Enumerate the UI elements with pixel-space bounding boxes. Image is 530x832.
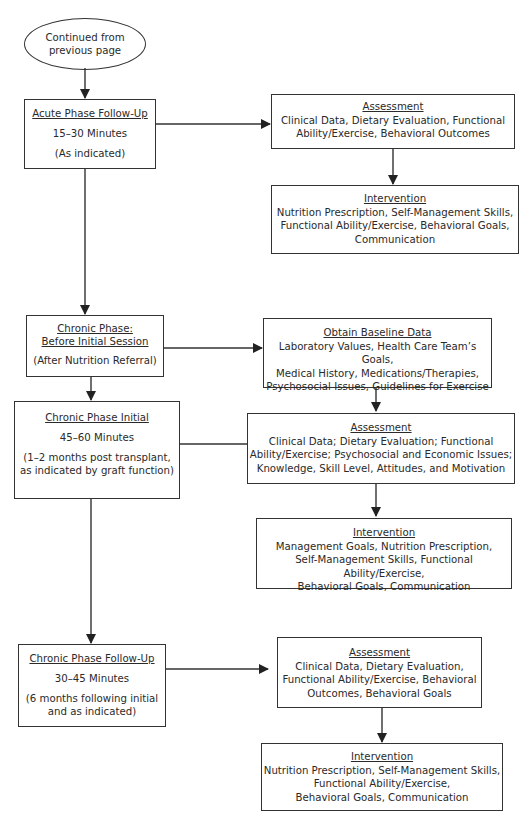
- acute-intervention-line: Nutrition Prescription, Self-Management …: [272, 206, 518, 220]
- chronic-followup-duration: 30–45 Minutes: [19, 672, 165, 685]
- chronic-initial-intervention-line: Self-Management Skills, Functional Abili…: [257, 553, 511, 580]
- acute-followup-note: (As indicated): [25, 147, 155, 160]
- chronic-followup-assessment-line: Clinical Data, Dietary Evaluation,: [278, 660, 481, 674]
- acute-followup-title: Acute Phase Follow-Up: [25, 107, 155, 120]
- oval-line-2: previous page: [25, 44, 145, 57]
- chronic-followup-note-line: (6 months following initial: [19, 692, 165, 705]
- baseline-data-box: Obtain Baseline Data Laboratory Values, …: [263, 318, 492, 388]
- chronic-before-title-line: Before Initial Session: [27, 335, 163, 348]
- chronic-followup-assessment-title: Assessment: [278, 646, 481, 660]
- chronic-followup-title: Chronic Phase Follow-Up: [19, 652, 165, 665]
- chronic-followup-intervention-box: Intervention Nutrition Prescription, Sel…: [261, 743, 503, 811]
- chronic-followup-intervention-line: Behavioral Goals, Communication: [262, 791, 502, 805]
- chronic-followup-assessment-line: Outcomes, Behavioral Goals: [278, 687, 481, 701]
- chronic-initial-title: Chronic Phase Initial: [15, 411, 179, 424]
- chronic-followup-assessment-line: Functional Ability/Exercise, Behavioral: [278, 673, 481, 687]
- acute-intervention-box: Intervention Nutrition Prescription, Sel…: [271, 185, 519, 254]
- chronic-phase-before-initial-box: Chronic Phase: Before Initial Session (A…: [26, 315, 164, 377]
- continued-from-previous-page-oval: Continued from previous page: [24, 18, 146, 70]
- chronic-phase-followup-box: Chronic Phase Follow-Up 30–45 Minutes (6…: [18, 644, 166, 727]
- chronic-initial-intervention-title: Intervention: [257, 526, 511, 540]
- acute-assessment-title: Assessment: [272, 100, 514, 114]
- chronic-phase-initial-box: Chronic Phase Initial 45–60 Minutes (1–2…: [14, 401, 180, 499]
- chronic-followup-assessment-box: Assessment Clinical Data, Dietary Evalua…: [277, 637, 482, 708]
- baseline-line: Psychosocial Issues, Guidelines for Exer…: [264, 380, 491, 394]
- acute-assessment-box: Assessment Clinical Data, Dietary Evalua…: [271, 94, 515, 149]
- baseline-line: Medical History, Medications/Therapies,: [264, 367, 491, 381]
- chronic-initial-intervention-box: Intervention Management Goals, Nutrition…: [256, 518, 512, 589]
- acute-phase-followup-box: Acute Phase Follow-Up 15–30 Minutes (As …: [24, 99, 156, 169]
- oval-line-1: Continued from: [25, 31, 145, 44]
- chronic-before-note: (After Nutrition Referral): [27, 354, 163, 367]
- chronic-initial-assessment-title: Assessment: [248, 421, 514, 435]
- chronic-initial-note-line: as indicated by graft function): [15, 464, 179, 477]
- chronic-initial-assessment-line: Knowledge, Skill Level, Attitudes, and M…: [248, 462, 514, 476]
- chronic-followup-intervention-line: Functional Ability/Exercise,: [262, 777, 502, 791]
- acute-assessment-line: Ability/Exercise, Behavioral Outcomes: [272, 127, 514, 141]
- acute-assessment-line: Clinical Data, Dietary Evaluation, Funct…: [272, 114, 514, 128]
- acute-intervention-line: Functional Ability/Exercise, Behavioral …: [272, 219, 518, 233]
- chronic-before-title-line: Chronic Phase:: [27, 322, 163, 335]
- chronic-initial-intervention-line: Management Goals, Nutrition Prescription…: [257, 540, 511, 554]
- baseline-title: Obtain Baseline Data: [264, 326, 491, 340]
- acute-intervention-title: Intervention: [272, 192, 518, 206]
- chronic-initial-assessment-line: Ability/Exercise; Psychosocial and Econo…: [248, 448, 514, 462]
- chronic-followup-intervention-title: Intervention: [262, 750, 502, 764]
- chronic-initial-duration: 45–60 Minutes: [15, 431, 179, 444]
- chronic-initial-note-line: (1–2 months post transplant,: [15, 451, 179, 464]
- chronic-initial-assessment-box: Assessment Clinical Data; Dietary Evalua…: [247, 413, 515, 484]
- baseline-line: Laboratory Values, Health Care Team’s Go…: [264, 340, 491, 367]
- chronic-followup-note-line: and as indicated): [19, 705, 165, 718]
- chronic-initial-intervention-line: Behavioral Goals, Communication: [257, 580, 511, 594]
- acute-followup-duration: 15–30 Minutes: [25, 127, 155, 140]
- chronic-followup-intervention-line: Nutrition Prescription, Self-Management …: [262, 764, 502, 778]
- chronic-initial-assessment-line: Clinical Data; Dietary Evaluation; Funct…: [248, 435, 514, 449]
- acute-intervention-line: Communication: [272, 233, 518, 247]
